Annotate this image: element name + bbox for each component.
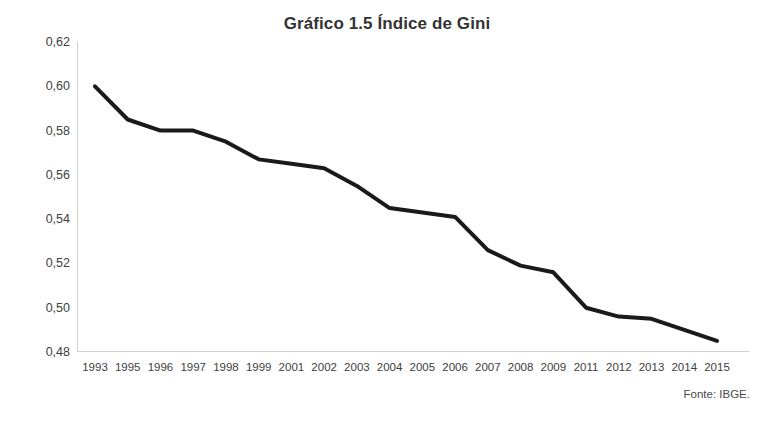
x-tick-label: 2006 (442, 361, 468, 373)
x-tick-label: 2013 (639, 361, 665, 373)
x-tick-label: 2008 (508, 361, 534, 373)
x-tick-label: 2004 (377, 361, 403, 373)
x-tick-label: 2003 (344, 361, 370, 373)
plot-area (77, 42, 717, 352)
x-tick-label: 2011 (574, 361, 599, 373)
x-tick-label: 2015 (704, 361, 730, 373)
x-tick-label: 1995 (115, 361, 141, 373)
x-tick-label: 2001 (279, 361, 305, 373)
y-tick-label: 0,62 (28, 35, 70, 49)
x-tick-label: 2009 (541, 361, 567, 373)
gini-index-line-chart: Gráfico 1.5 Índice de Gini 0,620,600,580… (0, 0, 774, 427)
x-tick-label: 1993 (82, 361, 108, 373)
y-tick-label: 0,48 (28, 345, 70, 359)
y-tick-label: 0,60 (28, 79, 70, 93)
y-tick-label: 0,54 (28, 212, 70, 226)
x-tick-label: 2002 (311, 361, 337, 373)
y-tick-label: 0,52 (28, 256, 70, 270)
x-axis-tick-labels: 1993199519961997199819992001200220032004… (0, 361, 774, 379)
chart-title: Gráfico 1.5 Índice de Gini (0, 14, 774, 34)
y-tick-label: 0,58 (28, 124, 70, 138)
x-tick-label: 1998 (213, 361, 239, 373)
y-tick-label: 0,50 (28, 301, 70, 315)
y-tick-label: 0,56 (28, 168, 70, 182)
x-tick-label: 2007 (475, 361, 501, 373)
source-note: Fonte: IBGE. (684, 388, 750, 400)
x-tick-label: 1996 (148, 361, 174, 373)
x-tick-label: 2012 (606, 361, 632, 373)
x-tick-label: 2005 (410, 361, 436, 373)
x-tick-label: 2014 (671, 361, 697, 373)
x-tick-label: 1999 (246, 361, 272, 373)
x-tick-label: 1997 (180, 361, 206, 373)
